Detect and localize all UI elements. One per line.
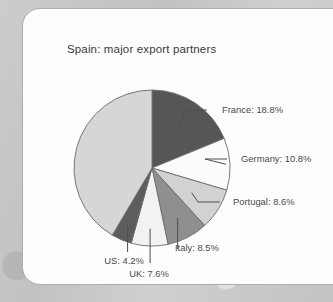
pie-label-uk: UK: 7.6% — [129, 268, 169, 279]
pie-label-us: US: 4.2% — [104, 255, 144, 266]
pie-label-portugal: Portugal: 8.6% — [233, 196, 295, 207]
pie-chart: France: 18.8%Germany: 10.8%Portugal: 8.6… — [0, 0, 333, 302]
pie-label-france: France: 18.8% — [222, 104, 283, 115]
pie-label-germany: Germany: 10.8% — [241, 153, 311, 164]
pie-label-italy: Italy: 8.5% — [175, 242, 219, 253]
